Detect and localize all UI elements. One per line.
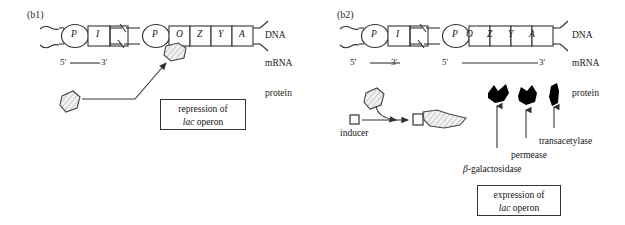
b1-row-label-protein: protein bbox=[265, 88, 292, 98]
b2-enzyme-label-beta-galactosidase: β-galactosidase bbox=[463, 164, 522, 174]
b1-repression-callout-box: repression of lac operon bbox=[160, 99, 246, 130]
b1-callout-lac-italic: lac bbox=[183, 117, 195, 127]
b2-callout-line1: expression of bbox=[478, 189, 560, 202]
b2-mrna-left-3prime: 3′ bbox=[391, 57, 397, 67]
inducer-square-icon bbox=[350, 115, 359, 124]
b2-gene-P-operon: P bbox=[452, 29, 458, 39]
b1-gene-Z: Z bbox=[197, 29, 202, 39]
b1-callout-line1: repression of bbox=[161, 103, 245, 116]
b1-gene-A: A bbox=[239, 29, 245, 39]
b2-row-label-protein: protein bbox=[572, 88, 599, 98]
b1-mrna-left-3prime: 3′ bbox=[101, 57, 107, 67]
b1-row-label-mrna: mRNA bbox=[265, 58, 292, 68]
binding-arrow-icon bbox=[82, 63, 166, 99]
b2-gene-Y: Y bbox=[508, 29, 513, 39]
repressor-protein-icon bbox=[60, 91, 80, 112]
b2-enzyme-label-transacetylase: transacetylase bbox=[539, 136, 592, 146]
b2-row-label-dna: DNA bbox=[572, 30, 593, 40]
b1-callout-line2: lac operon bbox=[161, 116, 245, 129]
beta-galactosidase-enzyme-icon bbox=[488, 84, 509, 103]
b1-gene-Y: Y bbox=[218, 29, 223, 39]
inducer-binding-arrow-icon bbox=[376, 106, 396, 120]
b1-gene-O: O bbox=[176, 29, 183, 39]
b2-gene-I: I bbox=[396, 29, 399, 39]
b2-mrna-left-5prime: 5′ bbox=[350, 57, 356, 67]
repressor-bound-to-operator-icon bbox=[164, 43, 186, 61]
b2-callout-operon: operon bbox=[510, 203, 539, 213]
b1-row-label-dna: DNA bbox=[265, 30, 286, 40]
b1-mrna-left-5prime: 5′ bbox=[60, 57, 66, 67]
b1-gene-P-regulatory: P bbox=[71, 29, 77, 39]
b2-callout-line2: lac operon bbox=[478, 202, 560, 215]
inactive-repressor-inducer-complex-icon bbox=[423, 110, 466, 128]
b2-enzyme-label-permease: permease bbox=[511, 150, 547, 160]
b2-inducer-label: inducer bbox=[340, 128, 369, 138]
b2-mrna-right-5prime: 5′ bbox=[442, 57, 448, 67]
b1-callout-operon: operon bbox=[194, 117, 223, 127]
permease-enzyme-icon bbox=[518, 85, 537, 105]
transacetylase-enzyme-icon bbox=[549, 83, 559, 106]
b2-gene-A: A bbox=[529, 29, 535, 39]
b2-gene-P-regulatory: P bbox=[371, 29, 377, 39]
b2-expression-callout-box: expression of lac operon bbox=[477, 185, 561, 216]
b2-mrna-right-3prime: 3′ bbox=[539, 57, 545, 67]
b2-row-label-mrna: mRNA bbox=[572, 58, 599, 68]
repressor-protein-icon bbox=[364, 88, 384, 109]
b2-callout-lac-italic: lac bbox=[499, 203, 511, 213]
b1-gene-I: I bbox=[96, 29, 99, 39]
b2-gene-Z: Z bbox=[487, 29, 492, 39]
beta-galactosidase-rest: -galactosidase bbox=[468, 164, 522, 174]
b1-gene-P-operon: P bbox=[152, 29, 158, 39]
figure-lac-operon-regulation: (b1) bbox=[0, 0, 625, 225]
b2-gene-O: O bbox=[466, 29, 473, 39]
